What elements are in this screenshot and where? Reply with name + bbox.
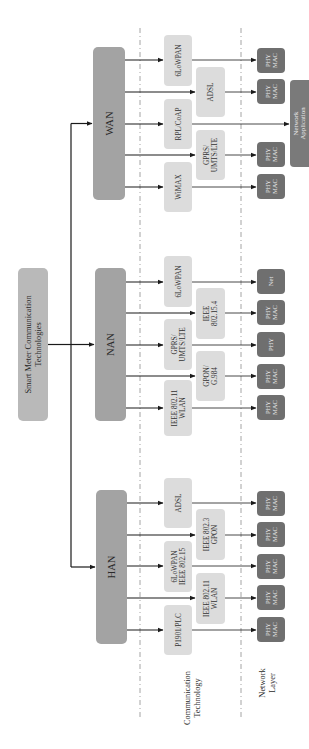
tech-box-han-adsl-label: ADSL: [175, 494, 183, 513]
layer-box-nan-gprs-umts-lte-label-line: PHY: [267, 338, 274, 351]
network-application-label: NetworkApplication: [292, 107, 307, 140]
tech-box-han-ieee-802-3-gpon-label-line: GPON: [211, 524, 219, 544]
tech-box-han-ieee-802-11-wlan-label-line: IEEE 802.11: [203, 580, 211, 617]
tech-box-nan-gprs-umts-lte-label-line: UMTS/LTE: [179, 327, 187, 362]
layer-box-han-ieee-802-11-wlan-label-line: PHY: [264, 591, 271, 604]
layer-box-nan-6lowpan-label-line: Net: [267, 277, 274, 287]
tech-box-han-6lowpan-ieee-802-15-label-line: IEEE 802.15: [179, 548, 187, 586]
layer-box-wan-adsl-label-line: PHY: [264, 85, 271, 98]
layer-box-nan-ieee-802-11-wlan-label: PHYMAC: [264, 399, 278, 415]
layer-box-nan-ieee-802-15-4-label-line: MAC: [271, 304, 278, 320]
tech-box-nan-ieee-802-15-4-label-line: 802.15.4: [211, 301, 219, 327]
root-box-label-line: Smart Meter Communication: [24, 295, 33, 394]
layer-box-nan-gpon-g-984-label: PHYMAC: [264, 368, 278, 384]
layer-box-nan-ieee-802-15-4-label: PHYMAC: [264, 304, 278, 320]
layer-box-nan-gpon-g-984-label-line: PHY: [264, 370, 271, 383]
tech-box-han-6lowpan-ieee-802-15-label: 6LoWPANIEEE 802.15: [170, 548, 186, 586]
column-label-network-layer-line: Layer: [268, 673, 277, 693]
layer-box-han-adsl-label-line: PHY: [264, 497, 271, 510]
network-box-nan-label: NAN: [105, 333, 116, 356]
tech-box-nan-gpon-g-984-label: GPON/G.984: [203, 365, 219, 387]
column-label-communication-technology-line: Communication: [183, 670, 192, 725]
tech-box-nan-gprs-umts-lte-label-line: GPRS/: [170, 335, 178, 355]
network-box-nan-label-line: NAN: [105, 333, 116, 356]
layer-box-han-adsl-label: PHYMAC: [264, 495, 278, 511]
tech-box-han-p1901-plc-label: P1901/PLC: [175, 613, 183, 647]
tech-box-wan-gprs-umts-lte-label-line: UMTS/LTE: [211, 137, 219, 172]
layer-box-han-ieee-802-3-gpon-label-line: PHY: [264, 528, 271, 541]
layer-box-han-p1901-plc-label: PHYMAC: [264, 621, 278, 637]
network-application-label-line: Application: [299, 107, 306, 140]
tech-box-han-ieee-802-3-gpon-label-line: IEEE 802.3: [203, 517, 211, 551]
tech-box-nan-gpon-g-984-label-line: GPON/: [203, 365, 211, 387]
layer-box-wan-adsl-label: PHYMAC: [264, 83, 278, 99]
tech-box-wan-6lowpan-label-line: 6LoWPAN: [175, 44, 183, 77]
layer-box-nan-gpon-g-984-label-line: MAC: [271, 368, 278, 384]
tech-box-nan-ieee-802-15-4-label-line: IEEE: [203, 305, 211, 321]
tech-box-han-p1901-plc-label-line: P1901/PLC: [175, 613, 183, 647]
column-label-communication-technology-line: Technology: [193, 677, 202, 717]
tech-box-wan-wimax-label-line: WiMAX: [175, 174, 183, 200]
tech-box-han-6lowpan-ieee-802-15-label-line: 6LoWPAN: [170, 550, 178, 583]
tech-box-nan-6lowpan-label: 6LoWPAN: [175, 265, 183, 298]
layer-box-han-6lowpan-ieee-802-15-label-line: MAC: [271, 558, 278, 574]
smart-meter-communication-diagram: Smart Meter CommunicationTechnologiesWAN…: [0, 0, 309, 749]
layer-box-han-ieee-802-11-wlan-label: PHYMAC: [264, 589, 278, 605]
layer-box-wan-wimax-label: PHYMAC: [264, 178, 278, 194]
layer-box-wan-6lowpan-label-line: MAC: [271, 52, 278, 68]
layer-box-han-adsl-label-line: MAC: [271, 495, 278, 511]
tech-box-wan-adsl-label-line: ADSL: [207, 83, 215, 102]
tech-box-nan-gpon-g-984-label-line: G.984: [211, 367, 219, 385]
column-label-network-layer-line: Network: [258, 668, 267, 698]
layer-box-wan-gprs-umts-lte-label-line: MAC: [271, 146, 278, 162]
column-label-communication-technology: CommunicationTechnology: [183, 670, 201, 725]
network-box-wan-label: WAN: [104, 111, 115, 135]
layer-box-nan-gprs-umts-lte-label: PHY: [267, 338, 274, 351]
layer-box-han-ieee-802-3-gpon-label: PHYMAC: [264, 526, 278, 542]
layer-box-wan-6lowpan-label-line: PHY: [264, 54, 271, 67]
column-labels: CommunicationTechnologyNetworkLayer: [183, 668, 276, 725]
network-box-wan-label-line: WAN: [104, 111, 115, 135]
network-box-han-label-line: HAN: [106, 555, 117, 578]
network-application-label-line: Network: [292, 111, 299, 135]
layer-box-wan-wimax-label-line: PHY: [264, 180, 271, 193]
layer-box-wan-6lowpan-label: PHYMAC: [264, 52, 278, 68]
tech-box-wan-wimax-label: WiMAX: [175, 174, 183, 200]
layer-box-nan-ieee-802-11-wlan-label-line: PHY: [264, 401, 271, 414]
layer-box-wan-wimax-label-line: MAC: [271, 178, 278, 194]
tech-box-wan-rpl-coap-label-line: RPL/CoAP: [175, 108, 183, 141]
tech-box-nan-6lowpan-label-line: 6LoWPAN: [175, 265, 183, 298]
tech-box-wan-rpl-coap-label: RPL/CoAP: [175, 108, 183, 141]
layer-box-han-6lowpan-ieee-802-15-label: PHYMAC: [264, 558, 278, 574]
layer-box-han-p1901-plc-label-line: MAC: [271, 621, 278, 637]
tech-box-nan-ieee-802-11-wlan-label-line: IEEE 802.11: [170, 389, 178, 426]
layer-box-han-p1901-plc-label-line: PHY: [264, 623, 271, 636]
tech-box-nan-ieee-802-11-wlan-label-line: WLAN: [179, 396, 187, 418]
layer-box-wan-gprs-umts-lte-label-line: PHY: [264, 148, 271, 161]
network-box-han-label: HAN: [106, 555, 117, 578]
layer-box-wan-gprs-umts-lte-label: PHYMAC: [264, 146, 278, 162]
layer-box-wan-adsl-label-line: MAC: [271, 83, 278, 99]
tech-box-wan-gprs-umts-lte-label-line: GPRS/: [203, 145, 211, 165]
layer-box-nan-ieee-802-15-4-label-line: PHY: [264, 306, 271, 319]
layer-box-han-6lowpan-ieee-802-15-label-line: PHY: [264, 560, 271, 573]
root-box-label-line: Technologies: [34, 322, 43, 367]
layer-box-han-ieee-802-3-gpon-label-line: MAC: [271, 526, 278, 542]
column-label-network-layer: NetworkLayer: [258, 668, 276, 698]
tech-box-han-ieee-802-11-wlan-label-line: WLAN: [211, 587, 219, 609]
layer-box-han-ieee-802-11-wlan-label-line: MAC: [271, 589, 278, 605]
tech-box-wan-adsl-label: ADSL: [207, 83, 215, 102]
layer-box-nan-6lowpan-label: Net: [267, 277, 274, 287]
tech-box-han-adsl-label-line: ADSL: [175, 494, 183, 513]
layer-box-nan-ieee-802-11-wlan-label-line: MAC: [271, 399, 278, 415]
tech-box-wan-6lowpan-label: 6LoWPAN: [175, 44, 183, 77]
